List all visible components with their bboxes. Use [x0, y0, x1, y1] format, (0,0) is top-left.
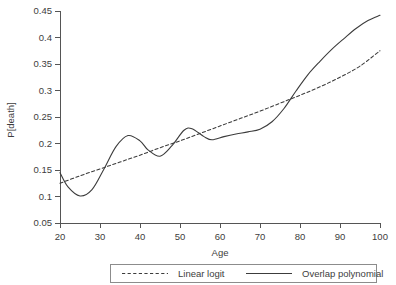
series-line-linear-logit [60, 51, 380, 184]
x-tick-label: 40 [135, 231, 146, 242]
chart-legend: Linear logitOverlap polynomial [111, 265, 384, 283]
x-tick-label: 20 [55, 231, 66, 242]
y-tick-label: 0.2 [39, 138, 52, 149]
y-tick-label: 0.45 [34, 5, 53, 16]
y-tick-label: 0.1 [39, 191, 52, 202]
y-axis-ticks: 0.050.10.150.20.250.30.350.40.45 [34, 5, 61, 228]
x-tick-label: 50 [175, 231, 186, 242]
x-tick-label: 60 [215, 231, 226, 242]
y-tick-label: 0.25 [34, 111, 53, 122]
legend-label: Overlap polynomial [302, 268, 383, 279]
x-tick-label: 30 [95, 231, 106, 242]
y-tick-label: 0.15 [34, 164, 53, 175]
chart-canvas: 0.050.10.150.20.250.30.350.40.45 2030405… [0, 0, 396, 285]
chart-figure: 0.050.10.150.20.250.30.350.40.45 2030405… [0, 0, 396, 285]
y-tick-label: 0.4 [39, 32, 52, 43]
x-tick-label: 70 [255, 231, 266, 242]
x-axis-ticks: 2030405060708090100 [55, 223, 388, 242]
x-axis-title: Age [212, 247, 229, 258]
x-tick-label: 100 [372, 231, 388, 242]
legend-label: Linear logit [178, 268, 225, 279]
y-tick-label: 0.3 [39, 85, 52, 96]
y-tick-label: 0.35 [34, 58, 53, 69]
x-tick-label: 90 [335, 231, 346, 242]
x-tick-label: 80 [295, 231, 306, 242]
series-line-overlap-polynomial [60, 15, 380, 196]
y-axis-title: P[death] [5, 102, 16, 137]
y-tick-label: 0.05 [34, 217, 53, 228]
data-series-group [60, 15, 380, 196]
